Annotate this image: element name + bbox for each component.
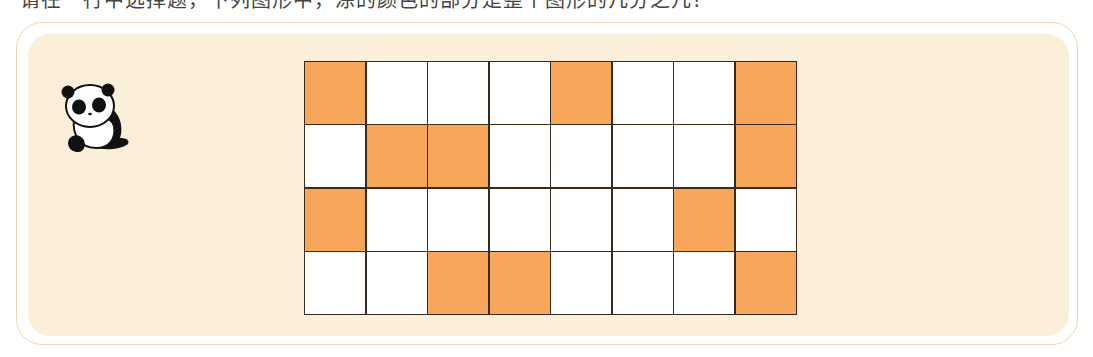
grid-cell-empty	[490, 189, 550, 251]
grid-cell-empty	[613, 189, 673, 251]
grid-cell-filled	[736, 252, 796, 314]
grid-cell-empty	[551, 189, 611, 251]
grid-cell-empty	[551, 125, 611, 187]
grid-cell-filled	[736, 62, 796, 124]
grid-cell-empty	[674, 252, 734, 314]
clipped-question-text: 请在一行中选择题，下列图形中，涂的颜色的部分是整个图形的几分之几？	[20, 0, 1070, 11]
grid-cell-empty	[428, 189, 488, 251]
grid-cell-filled	[367, 125, 427, 187]
grid-cell-empty	[613, 252, 673, 314]
grid-cell-filled	[305, 189, 365, 251]
grid-cell-filled	[490, 252, 550, 314]
grid-cell-empty	[613, 62, 673, 124]
grid-cell-filled	[674, 189, 734, 251]
grid-cell-empty	[305, 252, 365, 314]
grid-cell-empty	[428, 62, 488, 124]
grid-cell-empty	[613, 125, 673, 187]
grid-cell-empty	[490, 62, 550, 124]
fraction-grid	[304, 61, 797, 315]
grid-cell-filled	[305, 62, 365, 124]
grid-cell-empty	[674, 125, 734, 187]
grid-cell-filled	[428, 252, 488, 314]
grid-cell-empty	[367, 62, 427, 124]
grid-cell-empty	[367, 189, 427, 251]
grid-cell-empty	[367, 252, 427, 314]
grid-cell-filled	[551, 62, 611, 124]
grid-cell-filled	[736, 125, 796, 187]
grid-cell-empty	[551, 252, 611, 314]
panda-icon	[54, 76, 134, 156]
grid-cell-empty	[305, 125, 365, 187]
grid-cell-filled	[428, 125, 488, 187]
grid-cell-empty	[490, 125, 550, 187]
grid-cell-empty	[736, 189, 796, 251]
grid-cell-empty	[674, 62, 734, 124]
